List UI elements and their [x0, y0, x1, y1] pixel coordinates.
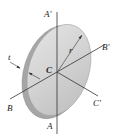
- label-b-prime: B′: [102, 42, 110, 52]
- label-a: A: [46, 121, 53, 131]
- label-c: C: [46, 65, 53, 75]
- disk: [11, 16, 102, 127]
- label-t: t: [8, 52, 11, 62]
- label-b: B: [7, 103, 13, 113]
- disk-axes-diagram: A′ A B′ B C′ C r t: [0, 0, 115, 138]
- label-a-prime: A′: [43, 9, 52, 19]
- label-r: r: [69, 45, 73, 55]
- label-c-prime: C′: [93, 98, 102, 108]
